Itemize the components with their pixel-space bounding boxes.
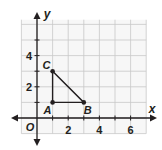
y-tick-label-2: 2 [26, 81, 32, 93]
y-tick-label-4: 4 [26, 50, 33, 62]
vertex-label-a: A [43, 104, 52, 116]
x-axis-arrow-left-icon [11, 115, 18, 122]
y-axis-arrow-down-icon [34, 139, 41, 146]
vertex-label-b: B [84, 104, 92, 116]
x-tick-label-2: 2 [65, 124, 71, 136]
y-axis-label: y [43, 7, 52, 21]
coordinate-plane: yxO24624ABC [0, 0, 162, 150]
x-axis-label: x [148, 102, 157, 116]
x-tick-label-4: 4 [96, 124, 103, 136]
y-axis-arrow-up-icon [34, 12, 41, 19]
x-tick-label-6: 6 [128, 124, 134, 136]
vertex-label-c: C [43, 59, 52, 71]
origin-label: O [26, 121, 35, 133]
vertex-c [50, 69, 55, 74]
